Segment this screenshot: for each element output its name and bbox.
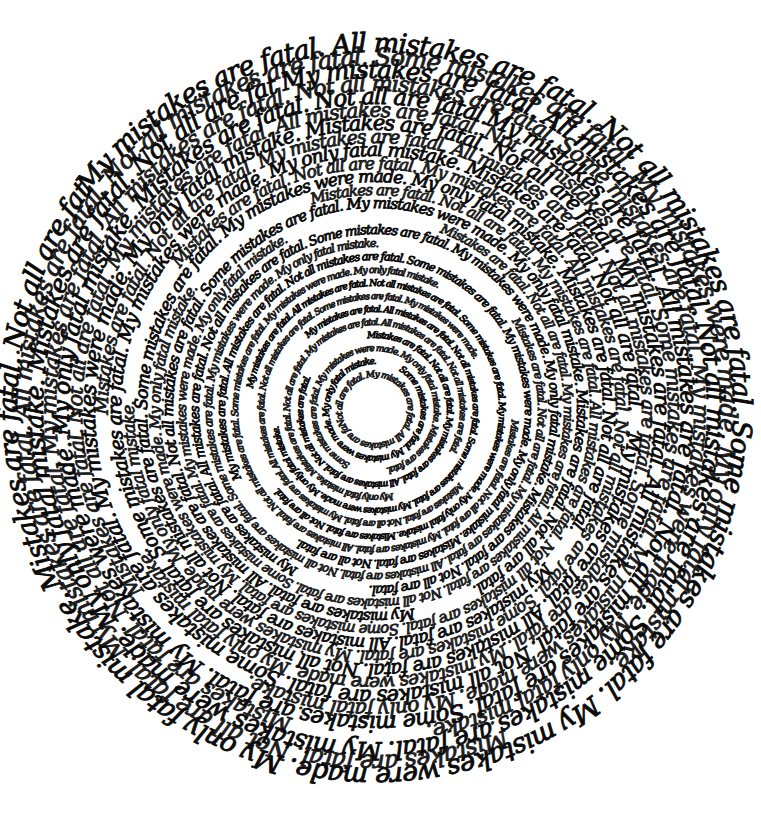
handwritten-spiral-artwork: My mistakes are fatal. All mistakes are … — [0, 0, 761, 813]
center-hole — [349, 379, 401, 431]
